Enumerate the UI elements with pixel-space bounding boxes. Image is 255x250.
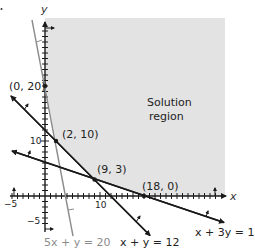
x-tick-label-10: 10 (95, 200, 107, 210)
solution-region (45, 18, 225, 196)
vertex-18-0 (142, 194, 146, 198)
vertex-label-2-10: (2, 10) (62, 128, 99, 141)
y-tick-label-neg5: −5 (27, 216, 40, 226)
x-axis-label: x (229, 190, 237, 203)
equation-label-x-plus-3y-18: x + 3y = 18 (195, 226, 255, 239)
region-label-line2: region (149, 110, 184, 123)
y-axis-label: y (40, 3, 48, 16)
x-tick-label-neg5: −5 (4, 199, 17, 209)
vertex-label-18-0: (18, 0) (142, 180, 179, 193)
vertex-label-9-3: (9, 3) (97, 163, 127, 176)
equation-label-x-plus-y-12: x + y = 12 (120, 236, 179, 249)
vertex-2-10 (54, 139, 58, 143)
y-tick-label-10: 10 (30, 136, 42, 146)
equation-label-5x-plus-y-20: 5x + y = 20 (44, 236, 110, 249)
feasible-region-graph: y x −5 10 10 −5 (0, 20) (2, 10) (9, 3) (… (0, 0, 255, 250)
vertex-9-3 (92, 177, 96, 181)
vertex-label-0-20: (0, 20) (9, 80, 46, 93)
stray-dot (1, 8, 3, 10)
region-label-line1: Solution (147, 96, 192, 109)
